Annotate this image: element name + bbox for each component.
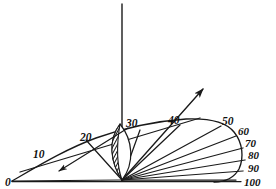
tick-label-80: 80 [248, 149, 260, 161]
tick-label-60: 60 [238, 125, 250, 137]
chart-linework [12, 4, 245, 182]
tick-label-70: 70 [245, 137, 257, 149]
tick-label-0: 0 [5, 176, 11, 188]
tick-label-100: 100 [244, 176, 261, 188]
radial-ray-0 [12, 180, 122, 181]
tick-label-20: 20 [79, 131, 92, 143]
arrow-upper-right [122, 89, 203, 180]
radiation-pattern-chart: 0 10 20 30 40 50 60 70 80 90 100 [0, 0, 276, 189]
figure-root: 0 10 20 30 40 50 60 70 80 90 100 [0, 0, 276, 189]
chord-line-upper [20, 118, 200, 172]
tick-label-90: 90 [248, 162, 260, 174]
tick-label-30: 30 [125, 117, 138, 129]
tick-label-40: 40 [167, 114, 180, 126]
tick-label-10: 10 [33, 148, 45, 160]
tick-label-50: 50 [222, 115, 234, 127]
